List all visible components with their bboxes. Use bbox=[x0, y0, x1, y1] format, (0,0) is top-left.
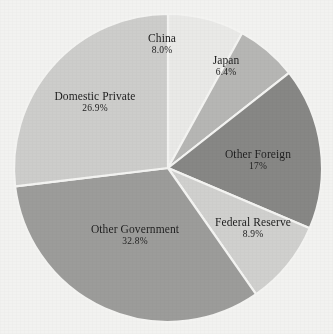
pie-slice-label-value: 26.9% bbox=[54, 103, 135, 114]
pie-slice-label-value: 32.8% bbox=[91, 236, 179, 247]
pie-slice-label-value: 17% bbox=[225, 161, 291, 172]
pie-slice-label: Domestic Private26.9% bbox=[54, 90, 135, 114]
pie-slice-label: Federal Reserve8.9% bbox=[215, 216, 291, 240]
pie-slice-label: Other Government32.8% bbox=[91, 223, 179, 247]
pie-slice-label: Other Foreign17% bbox=[225, 148, 291, 172]
pie-slice-label-value: 6.4% bbox=[213, 67, 240, 78]
pie-slice-label-name: Other Foreign bbox=[225, 148, 291, 161]
pie-slice-label-name: Other Government bbox=[91, 223, 179, 236]
pie-slice-label-name: Domestic Private bbox=[54, 90, 135, 103]
pie-slice-label-name: China bbox=[148, 32, 176, 45]
pie-chart: China8.0%Japan6.4%Other Foreign17%Federa… bbox=[0, 0, 333, 334]
pie-slice-label: Japan6.4% bbox=[213, 54, 240, 78]
pie-slice-label-value: 8.9% bbox=[215, 229, 291, 240]
pie-slice-label-value: 8.0% bbox=[148, 45, 176, 56]
pie-slice-label-name: Japan bbox=[213, 54, 240, 67]
pie-slice-label: China8.0% bbox=[148, 32, 176, 56]
pie-slice-label-name: Federal Reserve bbox=[215, 216, 291, 229]
